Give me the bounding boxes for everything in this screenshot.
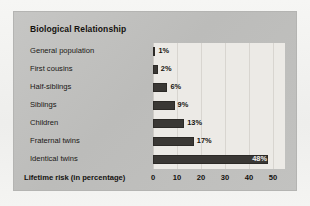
bar (153, 155, 268, 164)
bar-value-label: 2% (161, 64, 172, 73)
x-axis: Lifetime risk (in percentage) 0102030405… (14, 172, 296, 188)
bar-value-label: 13% (187, 118, 202, 127)
bar-value-label: 6% (170, 82, 181, 91)
x-tick-label: 0 (151, 173, 155, 182)
bar (153, 101, 175, 110)
bar-row: Children13% (14, 115, 296, 133)
x-tick-label: 10 (173, 173, 181, 182)
bar-row: Identical twins48% (14, 151, 296, 169)
bar (153, 83, 167, 92)
category-label: Half-siblings (30, 82, 71, 91)
x-tick-label: 50 (269, 173, 277, 182)
x-tick-label: 40 (245, 173, 253, 182)
chart-title: Biological Relationship (30, 24, 126, 34)
bar-row: Half-siblings6% (14, 79, 296, 97)
bar-value-label: 48% (252, 154, 267, 163)
bar (153, 137, 194, 146)
category-label: First cousins (30, 64, 73, 73)
x-axis-title: Lifetime risk (in percentage) (24, 173, 125, 182)
bar-row: First cousins2% (14, 61, 296, 79)
bar (153, 119, 184, 128)
x-tick-label: 20 (197, 173, 205, 182)
bar-row: General population1% (14, 43, 296, 61)
category-label: Siblings (30, 100, 57, 109)
bar-value-label: 17% (197, 136, 212, 145)
category-label: General population (30, 46, 94, 55)
bar-value-label: 1% (158, 46, 169, 55)
bar-row: Siblings9% (14, 97, 296, 115)
bar-value-label: 9% (178, 100, 189, 109)
x-tick-label: 30 (221, 173, 229, 182)
chart-card: Biological Relationship General populati… (14, 12, 296, 190)
bar (153, 65, 158, 74)
chart-figure: Biological Relationship General populati… (0, 0, 310, 206)
category-label: Children (30, 118, 58, 127)
bar-rows: General population1%First cousins2%Half-… (14, 43, 296, 171)
category-label: Identical twins (30, 154, 78, 163)
bar (153, 47, 155, 56)
category-label: Fraternal twins (30, 136, 80, 145)
bar-row: Fraternal twins17% (14, 133, 296, 151)
